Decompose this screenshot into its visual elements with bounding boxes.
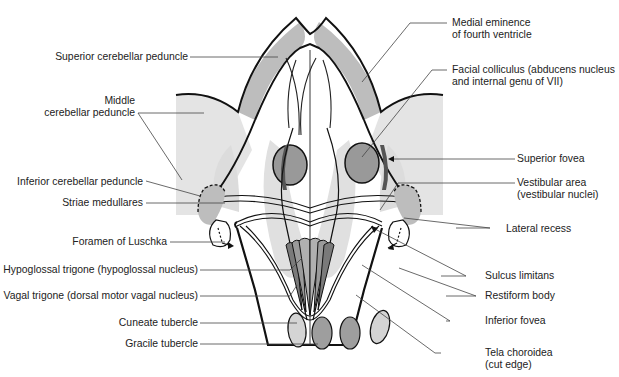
- label-text: Vagal trigone (dorsal motor vagal nucleu…: [4, 290, 198, 302]
- label-foramen-of-luschka: Foramen of Luschka: [72, 236, 167, 248]
- medial-eminence-lines: [286, 58, 331, 135]
- label-text: Striae medullares: [62, 197, 143, 209]
- label-medial-eminence: Medial eminence of fourth ventricle: [452, 17, 532, 41]
- label-text: Hypoglossal trigone (hypoglossal nucleus…: [3, 264, 198, 276]
- label-text: Restiform body: [485, 290, 555, 302]
- label-text: Cuneate tubercle: [119, 317, 198, 329]
- label-text-line-2: cerebellar peduncle: [44, 107, 135, 119]
- label-text: Sulcus limitans: [485, 270, 554, 282]
- label-superior-fovea: Superior fovea: [517, 153, 585, 165]
- label-text-line-2: (vestibular nuclei): [517, 189, 598, 201]
- label-text-line-1: Middle: [44, 95, 135, 107]
- label-text-line-2: of fourth ventricle: [452, 29, 532, 41]
- label-text-line-2: and internal genu of VII): [452, 76, 615, 88]
- label-text-line-1: Tela choroidea: [485, 347, 553, 359]
- label-sulcus-limitans: Sulcus limitans: [485, 270, 554, 282]
- label-text: Lateral recess: [506, 223, 571, 235]
- label-middle-cerebellar-peduncle: Middle cerebellar peduncle: [44, 95, 135, 119]
- label-text: Foramen of Luschka: [72, 236, 167, 248]
- label-text-line-2: (cut edge): [485, 359, 553, 371]
- label-tela-choroidea: Tela choroidea (cut edge): [485, 347, 553, 371]
- label-inferior-fovea: Inferior fovea: [485, 315, 546, 327]
- label-superior-cerebellar-peduncle: Superior cerebellar peduncle: [55, 51, 188, 63]
- label-text: Gracile tubercle: [125, 338, 198, 350]
- label-text: Inferior fovea: [485, 315, 546, 327]
- label-cuneate-tubercle: Cuneate tubercle: [119, 317, 198, 329]
- label-facial-colliculus: Facial colliculus (abducens nucleus and …: [452, 64, 615, 88]
- label-text-line-1: Vestibular area: [517, 177, 598, 189]
- label-text: Superior fovea: [517, 153, 585, 165]
- label-striae-medullares: Striae medullares: [62, 197, 143, 209]
- facial-colliculi: [273, 143, 379, 185]
- label-lateral-recess: Lateral recess: [506, 223, 571, 235]
- label-text: Inferior cerebellar peduncle: [17, 176, 143, 188]
- cuneate-tubercles: [287, 308, 394, 347]
- striae-medullares: [212, 196, 407, 226]
- label-restiform-body: Restiform body: [485, 290, 555, 302]
- label-text: Superior cerebellar peduncle: [55, 51, 188, 63]
- label-vestibular-area: Vestibular area (vestibular nuclei): [517, 177, 598, 201]
- label-gracile-tubercle: Gracile tubercle: [125, 338, 198, 350]
- label-text-line-1: Facial colliculus (abducens nucleus: [452, 64, 615, 76]
- label-text-line-1: Medial eminence: [452, 17, 532, 29]
- label-inferior-cerebellar-peduncle: Inferior cerebellar peduncle: [17, 176, 143, 188]
- label-hypoglossal-trigone: Hypoglossal trigone (hypoglossal nucleus…: [3, 264, 198, 276]
- label-vagal-trigone: Vagal trigone (dorsal motor vagal nucleu…: [4, 290, 198, 302]
